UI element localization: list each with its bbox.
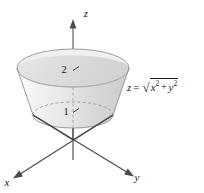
- y-axis-label: y: [134, 171, 140, 183]
- x-axis-arrowhead: [13, 170, 23, 178]
- equation-radical: √x2+y2: [142, 79, 179, 93]
- figure-canvas: z x y 2 1: [0, 0, 204, 193]
- equation-operator: +: [159, 80, 168, 92]
- radical-sign-icon: √: [143, 80, 150, 95]
- tick-label-2: 2: [61, 64, 66, 75]
- x-axis-label: x: [4, 176, 10, 188]
- equation-term2-exponent: 2: [173, 79, 177, 88]
- equation-label: z=√x2+y2: [127, 79, 178, 93]
- equation-radicand: x2+y2: [150, 78, 179, 92]
- equation-relation: =: [131, 81, 141, 93]
- z-axis-label: z: [83, 7, 89, 19]
- z-axis-arrowhead: [70, 19, 77, 29]
- math-figure: z x y 2 1 z=√x2+y2: [0, 0, 204, 193]
- tick-label-1: 1: [63, 106, 68, 117]
- y-axis-arrowhead: [124, 169, 134, 177]
